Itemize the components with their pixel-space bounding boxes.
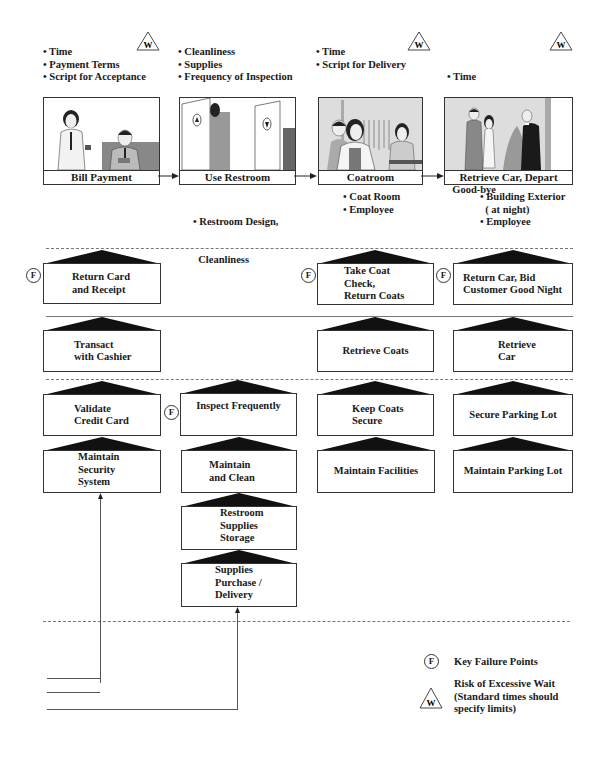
action-label: Inspect Frequently: [196, 400, 281, 413]
connector-line: [47, 709, 237, 710]
evidence-item: ( at night): [480, 204, 565, 217]
failure-point-icon: F: [164, 405, 179, 420]
roof-icon: [317, 381, 434, 395]
failure-point-icon: F: [26, 268, 41, 283]
arrowhead-up-icon: [234, 607, 241, 613]
roof-icon: [43, 250, 161, 264]
action-label: Maintain Facilities: [334, 465, 418, 478]
evidence-item: • Coat Room: [343, 191, 400, 204]
failure-point-icon: F: [301, 268, 316, 283]
evidence-retrieve-car: • Building Exterior ( at night) • Employ…: [480, 191, 565, 229]
roof-icon: [181, 493, 297, 507]
line-of-internal-interaction: [46, 379, 573, 380]
standard-item: • Frequency of Inspection: [178, 71, 293, 84]
action-label: Transact with Cashier: [74, 339, 131, 364]
action-label: Retrieve Car: [498, 339, 536, 364]
svg-text:W: W: [415, 40, 424, 50]
step-caption: Bill Payment: [44, 170, 159, 184]
roof-icon: [453, 250, 573, 264]
support-maintain-security-system: Maintain Security System: [43, 437, 161, 493]
step-caption: Retrieve Car, Depart: [445, 170, 572, 184]
standard-item: • Supplies: [178, 59, 293, 72]
evidence-item: • Employee: [480, 216, 565, 229]
connector-line: [100, 496, 101, 683]
standard-item: • Payment Terms: [43, 59, 146, 72]
onstage-take-coat-check: Take Coat Check, Return Coats: [317, 250, 434, 305]
connector-line: [47, 692, 100, 693]
roof-icon: [453, 437, 573, 451]
evidence-item: • Employee: [343, 204, 400, 217]
connector-line: [47, 678, 100, 679]
action-label: Return Car, Bid Customer Good Night: [463, 272, 562, 297]
action-label: Take Coat Check, Return Coats: [344, 265, 404, 303]
support-validate-credit-card: Validate Credit Card: [43, 381, 161, 436]
onstage-return-car: Return Car, Bid Customer Good Night: [453, 250, 573, 305]
action-label: Secure Parking Lot: [469, 409, 556, 422]
action-label: Retrieve Coats: [342, 345, 408, 358]
standard-item: • Cleanliness: [178, 46, 293, 59]
step-caption: Use Restroom: [180, 170, 295, 184]
support-maintain-and-clean: Maintain and Clean: [181, 437, 297, 493]
roof-icon: [43, 437, 161, 451]
svg-text:W: W: [144, 40, 153, 50]
action-label: Maintain and Clean: [209, 459, 255, 484]
evidence-item: Cleanliness: [193, 254, 278, 267]
step-panel-coatroom: Coatroom: [318, 97, 423, 185]
roof-icon: [317, 250, 434, 264]
roof-icon: [317, 317, 434, 331]
use-restroom-illustration: [180, 98, 295, 170]
backstage-retrieve-coats: Retrieve Coats: [317, 317, 434, 372]
legend-wait-risk-icon: W: [419, 687, 443, 709]
evidence-item: • Building Exterior: [480, 191, 565, 204]
onstage-return-card: Return Card and Receipt: [43, 250, 161, 304]
support-restroom-supplies-storage: Restroom Supplies Storage: [181, 493, 297, 550]
step-panel-bill-payment: Bill Payment: [43, 97, 160, 185]
arrow-icon: [421, 172, 445, 180]
action-label: Maintain Security System: [78, 451, 119, 489]
step-panel-use-restroom: Use Restroom: [179, 97, 296, 185]
coatroom-illustration: [319, 98, 422, 170]
standards-use-restroom: • Cleanliness • Supplies • Frequency of …: [178, 46, 293, 84]
roof-icon: [453, 381, 573, 395]
arrow-icon: [294, 172, 318, 180]
wait-risk-icon: W: [407, 31, 431, 51]
support-maintain-parking-lot: Maintain Parking Lot: [453, 437, 573, 493]
action-label: Supplies Purchase / Delivery: [215, 564, 262, 602]
standard-item: • Script for Delivery: [316, 59, 406, 72]
support-inspect-frequently: Inspect Frequently: [180, 380, 297, 436]
legend-wait-label: Risk of Excessive Wait (Standard times s…: [454, 678, 558, 716]
action-label: Maintain Parking Lot: [464, 465, 563, 478]
evidence-use-restroom: • Restroom Design, Cleanliness: [193, 191, 278, 279]
standard-item: • Time: [43, 46, 146, 59]
action-label: Validate Credit Card: [74, 403, 129, 428]
roof-icon: [43, 381, 161, 395]
step-panel-retrieve-car: Retrieve Car, Depart: [444, 97, 573, 185]
svg-text:W: W: [557, 40, 566, 50]
bill-payment-illustration: [44, 98, 159, 170]
failure-point-icon: F: [436, 268, 451, 283]
arrow-icon: [158, 172, 180, 180]
support-maintain-facilities: Maintain Facilities: [317, 437, 435, 493]
legend-failure-label: Key Failure Points: [454, 656, 538, 669]
support-supplies-purchase-delivery: Supplies Purchase / Delivery: [181, 550, 297, 607]
step-caption: Coatroom: [319, 170, 422, 184]
action-label: Keep Coats Secure: [352, 403, 404, 428]
line-of-support: [43, 621, 570, 622]
standard-item: • Time: [316, 46, 406, 59]
roof-icon: [317, 437, 435, 451]
standard-item: • Script for Acceptance: [43, 71, 146, 84]
backstage-transact-cashier: Transact with Cashier: [43, 317, 161, 372]
backstage-retrieve-car: Retrieve Car: [453, 317, 573, 372]
connector-line: [237, 610, 238, 710]
action-label: Return Card and Receipt: [72, 271, 130, 296]
action-label: Restroom Supplies Storage: [220, 507, 264, 545]
evidence-coatroom: • Coat Room • Employee: [343, 191, 400, 216]
standard-item: • Time: [447, 71, 517, 84]
arrowhead-up-icon: [97, 493, 104, 499]
line-of-interaction: [46, 248, 573, 249]
legend-failure-point-icon: F: [424, 654, 439, 669]
roof-icon: [181, 437, 297, 451]
roof-icon: [453, 317, 573, 331]
support-secure-parking-lot: Secure Parking Lot: [453, 381, 573, 436]
svg-text:W: W: [427, 698, 436, 708]
